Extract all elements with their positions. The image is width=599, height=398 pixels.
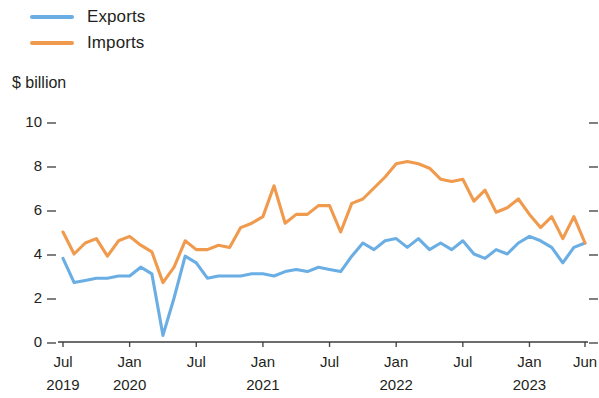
y-tick-label: 8 — [34, 157, 42, 174]
series-line-exports — [63, 236, 585, 335]
x-tick-label-year: 2020 — [113, 376, 146, 393]
x-tick-label-month: Jul — [187, 353, 206, 370]
x-tick-label-month: Jan — [118, 353, 142, 370]
x-tick-label-month: Jun — [573, 353, 597, 370]
x-axis-ticks: Jul2019Jan2020JulJan2021JulJan2022JulJan… — [46, 342, 597, 393]
y-tick-label: 10 — [25, 113, 42, 130]
y-tick-label: 0 — [34, 333, 42, 350]
plot-area: 0246810 Jul2019Jan2020JulJan2021JulJan20… — [0, 0, 599, 398]
x-tick-label-year: 2022 — [380, 376, 413, 393]
x-tick-label-year: 2021 — [246, 376, 279, 393]
x-tick-label-month: Jul — [453, 353, 472, 370]
x-tick-label-month: Jan — [251, 353, 275, 370]
y-axis-ticks: 0246810 — [25, 113, 56, 350]
series-line-imports — [63, 162, 585, 283]
y-tick-label: 4 — [34, 245, 42, 262]
x-tick-label-month: Jul — [53, 353, 72, 370]
line-chart: Exports Imports $ billion 0246810 Jul201… — [0, 0, 599, 398]
x-tick-label-month: Jul — [320, 353, 339, 370]
data-series-group — [63, 162, 585, 336]
y-tick-label: 2 — [34, 289, 42, 306]
y-tick-label: 6 — [34, 201, 42, 218]
x-tick-label-month: Jan — [384, 353, 408, 370]
x-tick-label-year: 2019 — [46, 376, 79, 393]
x-tick-label-year: 2023 — [513, 376, 546, 393]
right-axis-ticks — [589, 123, 598, 343]
x-tick-label-month: Jan — [517, 353, 541, 370]
